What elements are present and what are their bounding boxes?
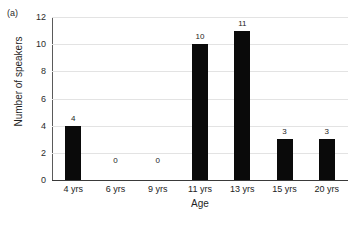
- bar-slot: 3: [263, 17, 305, 180]
- bar-value-label: 11: [238, 19, 246, 28]
- bar-value-label: 0: [155, 156, 159, 165]
- bar-slot: 4: [52, 17, 94, 180]
- bar-slot: 10: [179, 17, 221, 180]
- x-tick-label: 20 yrs: [315, 184, 340, 194]
- y-tick-label: 6: [41, 94, 52, 104]
- bar-slot: 11: [221, 17, 263, 180]
- bar-slot: 0: [137, 17, 179, 180]
- y-tick-label: 4: [41, 121, 52, 131]
- bar-chart-figure: (a) 024681012 400101133 4 yrs6 yrs9 yrs1…: [0, 0, 362, 225]
- bar-value-label: 10: [196, 32, 205, 41]
- bar-slot: 0: [94, 17, 136, 180]
- y-tick-label: 8: [41, 66, 52, 76]
- y-tick-label: 12: [36, 12, 52, 22]
- x-axis-line: [52, 180, 348, 181]
- x-tick-label: 6 yrs: [106, 184, 126, 194]
- bar-value-label: 0: [113, 156, 117, 165]
- bar: [65, 126, 81, 180]
- bar-value-label: 3: [325, 127, 329, 136]
- bar: [192, 44, 208, 180]
- x-tick-label: 11 yrs: [188, 184, 212, 194]
- y-tick-label: 10: [36, 39, 52, 49]
- x-tick-label: 9 yrs: [148, 184, 168, 194]
- x-tick-label: 15 yrs: [272, 184, 297, 194]
- bar: [234, 31, 250, 180]
- bar-slot: 3: [306, 17, 348, 180]
- bar: [319, 139, 335, 180]
- bar: [277, 139, 293, 180]
- y-tick-label: 0: [41, 175, 52, 185]
- plot-area: 024681012 400101133: [52, 17, 348, 180]
- x-tick-label: 4 yrs: [63, 184, 83, 194]
- x-tick-label: 13 yrs: [230, 184, 255, 194]
- x-axis-title: Age: [52, 198, 348, 209]
- y-axis-title: Number of speakers: [12, 0, 26, 163]
- bar-value-label: 4: [71, 114, 75, 123]
- y-tick-label: 2: [41, 148, 52, 158]
- bar-value-label: 3: [282, 127, 286, 136]
